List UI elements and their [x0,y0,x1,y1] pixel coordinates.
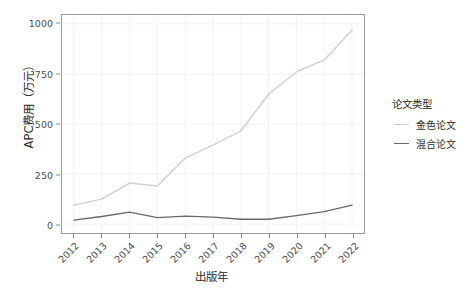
chart-figure: APC费用（万元） 02505007501000 201220132014201… [0,0,471,288]
gridlines [62,15,364,233]
x-tick-label: 2015 [140,240,165,265]
legend-items: 金色论文混合论文 [392,118,470,150]
x-tick-mark [213,234,214,238]
legend-title: 论文类型 [392,96,470,111]
x-tick-label: 2014 [112,240,137,265]
x-tick-label: 2012 [56,240,81,265]
x-tick-label: 2022 [336,240,361,265]
x-tick-mark [325,234,326,238]
x-tick-mark [73,234,74,238]
x-tick-label: 2017 [196,240,221,265]
y-tick-mark [56,23,60,24]
x-tick-label: 2013 [84,240,109,265]
x-tick-label: 2021 [308,240,333,265]
plot-area [62,15,364,233]
legend-item[interactable]: 金色论文 [392,118,470,131]
x-tick-label: 2019 [252,240,277,265]
x-tick-mark [269,234,270,238]
y-tick-mark [56,124,60,125]
x-tick-label: 2018 [224,240,249,265]
x-tick-mark [129,234,130,238]
x-tick-mark [353,234,354,238]
legend-key-line-icon [392,118,410,131]
x-tick-label: 2016 [168,240,193,265]
y-tick-label: 0 [13,220,53,231]
x-axis-title: 出版年 [58,268,365,284]
y-tick-label: 250 [13,169,53,180]
y-tick-mark [56,73,60,74]
legend-item[interactable]: 混合论文 [392,137,470,150]
y-axis-title: APC费用（万元） [20,34,36,174]
plot-panel [61,14,365,234]
x-tick-mark [185,234,186,238]
x-tick-mark [297,234,298,238]
legend-key-line-icon [392,137,410,150]
x-tick-mark [101,234,102,238]
x-tick-mark [241,234,242,238]
y-tick-mark [56,225,60,226]
y-tick-mark [56,174,60,175]
y-tick-label: 500 [13,119,53,130]
x-tick-mark [157,234,158,238]
legend: 论文类型 金色论文混合论文 [392,96,470,156]
y-tick-label: 750 [13,68,53,79]
y-tick-label: 1000 [13,18,53,29]
x-tick-label: 2020 [280,240,305,265]
legend-item-label: 混合论文 [416,136,456,151]
legend-item-label: 金色论文 [416,117,456,132]
